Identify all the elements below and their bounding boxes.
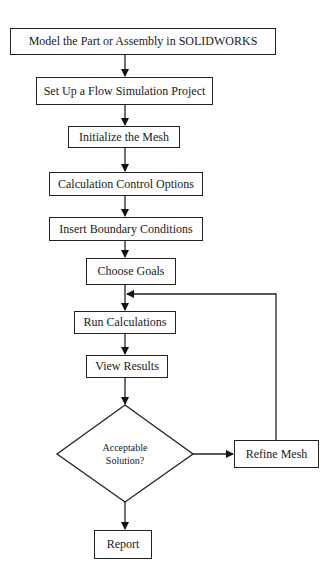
step-boundary-conditions: Insert Boundary Conditions (49, 217, 203, 241)
step-model-part: Model the Part or Assembly in SOLIDWORKS (10, 28, 276, 55)
decision-label-line2: Solution? (95, 454, 155, 467)
step-view-results: View Results (86, 355, 168, 378)
step-label: Report (107, 537, 140, 552)
step-run-calculations: Run Calculations (74, 311, 176, 334)
step-label: Run Calculations (84, 315, 167, 330)
step-label: View Results (95, 359, 159, 374)
step-label: Choose Goals (98, 264, 165, 279)
step-label: Initialize the Mesh (79, 130, 169, 145)
step-label: Set Up a Flow Simulation Project (44, 84, 206, 99)
decision-label: Acceptable Solution? (95, 441, 155, 467)
step-label: Insert Boundary Conditions (59, 222, 192, 237)
step-label: Refine Mesh (246, 447, 308, 462)
step-label: Calculation Control Options (58, 177, 194, 192)
step-setup-project: Set Up a Flow Simulation Project (36, 77, 213, 105)
step-refine-mesh: Refine Mesh (234, 440, 319, 468)
step-initialize-mesh: Initialize the Mesh (68, 126, 180, 148)
decision-label-line1: Acceptable (95, 441, 155, 454)
step-calculation-control: Calculation Control Options (49, 172, 203, 196)
step-report: Report (94, 530, 152, 559)
step-choose-goals: Choose Goals (86, 258, 176, 285)
step-label: Model the Part or Assembly in SOLIDWORKS (29, 34, 258, 49)
